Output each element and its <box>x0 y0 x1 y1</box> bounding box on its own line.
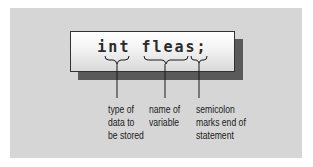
label-line: variable <box>149 116 180 129</box>
label-name: name of variable <box>149 103 180 129</box>
label-line: type of <box>108 103 144 116</box>
brace-semicolon-icon <box>191 56 207 63</box>
label-type: type of data to be stored <box>108 103 144 142</box>
label-line: data to <box>108 116 144 129</box>
label-line: be stored <box>108 129 144 142</box>
label-semicolon: semicolon marks end of statement <box>196 103 246 142</box>
brace-fleas-icon <box>144 56 188 64</box>
label-line: semicolon <box>196 103 246 116</box>
label-line: statement <box>196 129 246 142</box>
brace-int-icon <box>105 56 129 64</box>
brace-connectors <box>0 0 313 167</box>
label-line: name of <box>149 103 180 116</box>
label-line: marks end of <box>196 116 246 129</box>
